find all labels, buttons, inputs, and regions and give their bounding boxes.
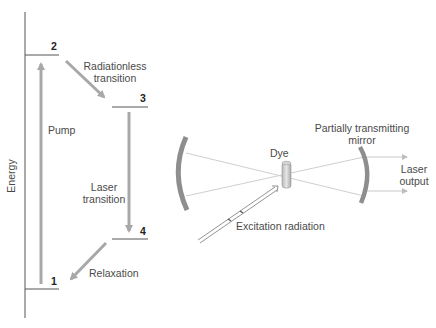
level-4-label: 4 — [140, 225, 146, 237]
level-1-label: 1 — [51, 275, 57, 287]
dye-cell-top — [282, 161, 291, 165]
radiationless-label: Radiationless transition — [82, 60, 148, 84]
cavity-ray — [186, 153, 364, 196]
laser-output-label: Laser output — [396, 163, 432, 187]
excitation-beam — [198, 187, 275, 240]
cavity-ray — [186, 157, 364, 196]
pump-label: Pump — [48, 124, 75, 136]
excitation-beam — [200, 190, 277, 243]
dye-cell — [282, 162, 291, 188]
mirror-label: Partially transmitting mirror — [314, 122, 410, 146]
excitation-label: Excitation radiation — [236, 220, 325, 232]
energy-axis-label: Energy — [5, 159, 17, 192]
level-2-label: 2 — [51, 40, 57, 52]
output-mirror — [360, 147, 367, 203]
level-3-label: 3 — [140, 92, 146, 104]
relaxation-label: Relaxation — [89, 267, 139, 279]
diagram-canvas — [0, 0, 436, 328]
laser-transition-label: Laser transition — [82, 181, 126, 205]
left-mirror — [178, 137, 187, 210]
dye-label: Dye — [270, 147, 289, 159]
